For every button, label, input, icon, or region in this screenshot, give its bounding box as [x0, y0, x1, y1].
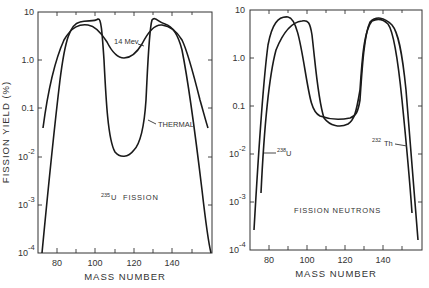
left-y-tick-labels: 10 1.0 0.1 10 10 10 -2 -3 -4: [18, 7, 35, 258]
svg-text:10: 10: [229, 245, 239, 255]
svg-text:10: 10: [235, 5, 245, 15]
right-plot-title: FISSION NEUTRONS: [294, 206, 381, 215]
svg-text:10: 10: [18, 152, 28, 162]
svg-text:120: 120: [126, 258, 141, 268]
svg-text:Th: Th: [384, 139, 393, 148]
right-y-tick-labels: 10 1.0 0.1 10 10 10 -2 -3 -4: [229, 5, 246, 255]
svg-text:-4: -4: [239, 240, 246, 249]
svg-text:1.0: 1.0: [21, 55, 34, 65]
svg-text:100: 100: [299, 255, 314, 265]
y-axis-title: FISSION YIELD (%): [0, 81, 11, 183]
annot-238u: 238 U: [264, 147, 291, 158]
svg-text:10: 10: [24, 7, 34, 17]
annot-thermal: THERMAL: [158, 120, 194, 129]
svg-text:10: 10: [229, 197, 239, 207]
right-x-axis-title: MASS NUMBER: [295, 268, 377, 279]
svg-text:80: 80: [52, 258, 62, 268]
svg-text:232: 232: [372, 137, 381, 143]
left-plot: 10 1.0 0.1 10 10 10 -2 -3 -4 80 100 120 …: [18, 7, 212, 282]
fission-yield-figure: FISSION YIELD (%) 10 1.0 0.1 10 10: [0, 0, 429, 288]
svg-text:10: 10: [18, 200, 28, 210]
right-y-ticks: [250, 58, 422, 202]
svg-text:-2: -2: [239, 144, 246, 153]
svg-text:238: 238: [277, 147, 286, 153]
annot-14mev: 14 Mev: [114, 37, 139, 46]
left-x-axis-title: MASS NUMBER: [84, 271, 166, 282]
svg-text:-3: -3: [28, 195, 35, 204]
svg-text:-2: -2: [28, 147, 35, 156]
annot-232th: 232 Th: [372, 137, 407, 148]
svg-text:0.1: 0.1: [21, 103, 34, 113]
right-x-tick-labels: 80 100 120 140: [264, 255, 391, 265]
left-y-ticks: [38, 60, 212, 205]
svg-text:80: 80: [264, 255, 274, 265]
left-x-tick-labels: 80 100 120 140: [52, 258, 180, 268]
svg-text:U: U: [111, 193, 116, 202]
right-plot: 10 1.0 0.1 10 10 10 -2 -3 -4 80 100 120 …: [229, 5, 422, 279]
svg-text:10: 10: [229, 149, 239, 159]
svg-text:100: 100: [87, 258, 102, 268]
svg-text:U: U: [286, 149, 291, 158]
svg-text:-3: -3: [239, 192, 246, 201]
svg-text:0.1: 0.1: [232, 101, 245, 111]
arrow-thermal: [148, 120, 156, 124]
svg-text:235: 235: [101, 192, 110, 198]
svg-text:FISSION: FISSION: [123, 193, 159, 202]
left-x-ticks: [57, 12, 192, 253]
svg-text:1.0: 1.0: [232, 53, 245, 63]
thermal-curve: [42, 19, 211, 253]
u238-curve: [261, 20, 412, 213]
svg-text:140: 140: [375, 255, 390, 265]
svg-text:10: 10: [18, 248, 28, 258]
svg-text:-4: -4: [28, 243, 35, 252]
left-plot-title: 235 U FISSION: [101, 192, 159, 202]
svg-text:140: 140: [164, 258, 179, 268]
svg-text:120: 120: [337, 255, 352, 265]
